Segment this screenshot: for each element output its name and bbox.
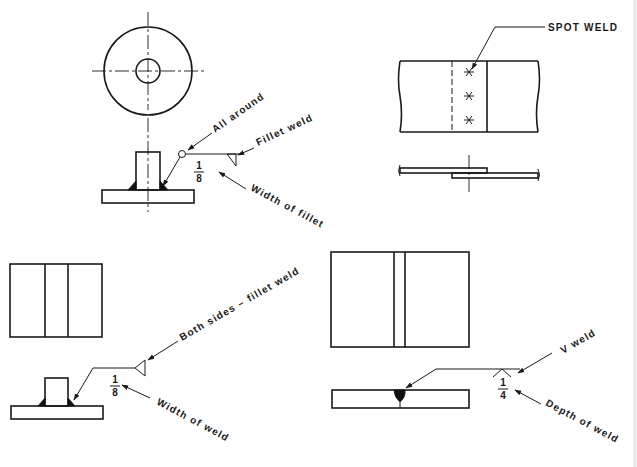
size-denominator: 8 xyxy=(112,387,118,398)
label-width-of-fillet: Width of fillet xyxy=(249,182,326,230)
v-weld-top-view xyxy=(331,252,469,347)
fillet-weld-symbol: 1 8 xyxy=(163,151,242,187)
spot-weld-star-icon xyxy=(464,116,474,124)
label-fillet-weld: Fillet weld xyxy=(254,112,314,148)
both-sides-top-view xyxy=(10,264,102,337)
size-denominator: 4 xyxy=(500,390,506,401)
v-weld-symbol: 1 4 xyxy=(406,369,520,401)
spot-weld-star-icon xyxy=(464,92,474,100)
size-numerator: 1 xyxy=(196,160,202,171)
panel-v-weld: 1 4 V weld Depth of weld xyxy=(331,252,621,445)
label-both-sides-fillet-weld: Both sides – fillet weld xyxy=(178,265,302,343)
size-numerator: 1 xyxy=(112,374,118,385)
both-sides-front-view xyxy=(11,378,103,419)
welding-symbols-diagram: 1 8 All around Fillet weld Width of fill… xyxy=(0,0,637,467)
spot-weld-top-view xyxy=(399,61,540,132)
front-view-flange xyxy=(102,118,194,212)
size-numerator: 1 xyxy=(500,377,506,388)
panel-fillet-all-around: 1 8 All around Fillet weld Width of fill… xyxy=(92,12,326,230)
top-view-flange xyxy=(92,12,206,115)
spot-weld-marks xyxy=(464,68,474,124)
panel-fillet-both-sides: 1 8 Both sides – fillet weld Width of we… xyxy=(10,264,301,444)
both-sides-weld-symbol: 1 8 xyxy=(74,360,145,400)
label-spot-weld: SPOT WELD xyxy=(548,22,618,33)
label-all-around: All around xyxy=(210,90,267,134)
size-denominator: 8 xyxy=(196,173,202,184)
panel-spot-weld: SPOT WELD xyxy=(399,22,619,193)
label-v-weld: V weld xyxy=(559,327,598,356)
spot-weld-side-view xyxy=(399,155,540,193)
label-width-of-weld: Width of weld xyxy=(155,396,231,444)
spot-weld-star-icon xyxy=(464,68,474,76)
all-around-circle-icon xyxy=(179,151,186,158)
page-edge-shadow xyxy=(633,0,637,467)
v-weld-front-view xyxy=(332,390,469,408)
label-depth-of-weld: Depth of weld xyxy=(544,397,621,445)
